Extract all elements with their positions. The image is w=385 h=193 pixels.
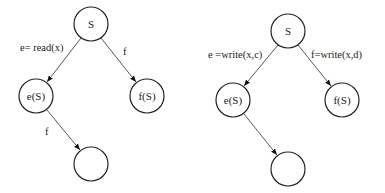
edge-label-e-write: e =write(x,c) xyxy=(208,49,263,61)
diagram-canvas: e= read(x) f f S e(S) f(S) e =write(x,c)… xyxy=(0,0,385,193)
node-label-right: f(S) xyxy=(333,94,350,107)
read-write-tree: e= read(x) f f S e(S) f(S) xyxy=(19,7,164,181)
edge-label-f-lower: f xyxy=(45,126,49,137)
node-left: e(S) xyxy=(19,79,53,113)
edge-left-to-bottom xyxy=(244,114,277,155)
node-root: S xyxy=(271,14,305,48)
edge-label-f-write: f=write(x,d) xyxy=(311,49,363,61)
node-label-left: e(S) xyxy=(27,90,46,103)
node-label-root: S xyxy=(88,18,94,30)
node-right: f(S) xyxy=(130,79,164,113)
edge-root-to-right xyxy=(101,38,136,82)
edge-label-f: f xyxy=(123,46,127,57)
node-root: S xyxy=(74,7,108,41)
node-label-root: S xyxy=(285,25,291,37)
node-bottom xyxy=(271,152,305,186)
write-write-tree: e =write(x,c) f=write(x,d) S e(S) f(S) xyxy=(208,14,363,186)
node-label-right: f(S) xyxy=(138,90,155,103)
node-bottom xyxy=(74,147,108,181)
node-label-left: e(S) xyxy=(224,94,243,107)
edge-left-to-bottom xyxy=(47,110,80,150)
node-left: e(S) xyxy=(216,83,250,117)
node-right: f(S) xyxy=(325,83,359,117)
edge-label-e-read: e= read(x) xyxy=(20,42,64,54)
